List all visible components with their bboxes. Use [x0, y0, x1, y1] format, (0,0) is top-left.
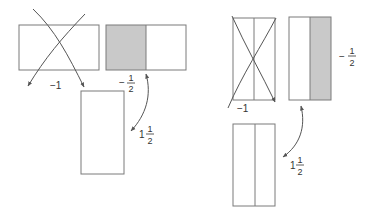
left-panel: −1 − 1 2 1 1 2 [19, 9, 186, 174]
result-rect-right [233, 124, 275, 206]
svg-text:−: − [339, 51, 345, 62]
svg-text:1: 1 [297, 155, 302, 165]
half-shaded-rect-right [289, 17, 331, 100]
svg-text:2: 2 [297, 167, 302, 177]
double-arrow [131, 74, 148, 131]
right-panel: −1 − 1 2 1 1 2 [228, 16, 356, 206]
result-rect [81, 91, 124, 174]
crossed-whole-rect [19, 25, 99, 70]
svg-text:1: 1 [128, 73, 133, 83]
svg-text:1: 1 [139, 129, 145, 140]
svg-text:2: 2 [128, 84, 133, 94]
svg-text:2: 2 [349, 58, 354, 68]
half-shaded-rect [106, 25, 186, 70]
svg-text:1: 1 [290, 160, 296, 171]
svg-text:1: 1 [147, 124, 152, 134]
double-arrow-right [283, 106, 303, 157]
one-and-a-half-label-right: 1 1 2 [290, 155, 304, 177]
svg-text:2: 2 [147, 136, 152, 146]
crossed-whole-rect-right [233, 18, 275, 100]
minus-one-label: −1 [50, 80, 62, 91]
fraction-subtraction-diagram: −1 − 1 2 1 1 2 −1 [0, 0, 374, 214]
svg-text:−: − [119, 77, 125, 88]
minus-half-label-right: − 1 2 [339, 46, 356, 68]
minus-one-label-right: −1 [237, 103, 249, 114]
svg-text:1: 1 [349, 46, 354, 56]
one-and-a-half-label: 1 1 2 [139, 124, 154, 146]
